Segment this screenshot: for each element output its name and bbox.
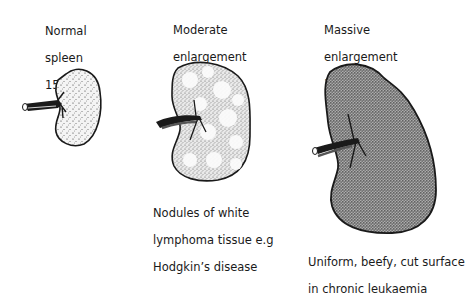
caption-line: Nodules of white <box>153 207 273 221</box>
moderate-spleen-drawing <box>156 62 250 180</box>
massive-caption: Uniform, beefy, cut surface in chronic l… <box>308 242 465 297</box>
massive-spleen-drawing <box>313 64 437 233</box>
caption-line: Hodgkin’s disease <box>153 261 273 275</box>
caption-line: lymphoma tissue e.g <box>153 234 273 248</box>
normal-spleen-drawing <box>23 69 101 145</box>
caption-line: Uniform, beefy, cut surface <box>308 256 465 270</box>
moderate-caption: Nodules of white lymphoma tissue e.g Hod… <box>153 193 273 288</box>
caption-line: in chronic leukaemia <box>308 283 465 297</box>
